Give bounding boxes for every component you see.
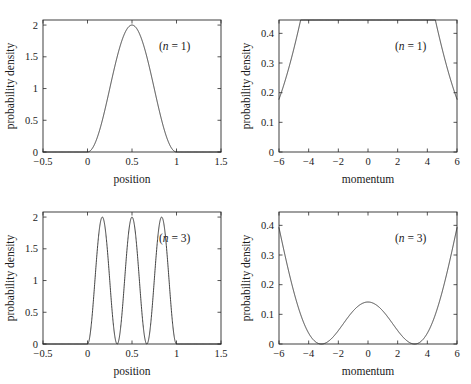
panel-annotation: (n = 1) <box>395 40 427 53</box>
x-tick-label: −0.5 <box>33 156 52 167</box>
x-tick-label: −0.5 <box>33 348 52 359</box>
data-curve <box>43 217 221 344</box>
y-tick-label: 2 <box>33 20 38 31</box>
y-tick-label: 0.5 <box>25 115 38 126</box>
x-tick-label: 4 <box>425 348 431 359</box>
x-axis-title: position <box>113 173 150 186</box>
x-tick-label: −2 <box>333 156 344 167</box>
plot-area-position-n1: −0.500.511.500.511.52positionprobability… <box>4 20 228 186</box>
data-curve <box>279 20 457 99</box>
x-tick-label: 0.5 <box>125 156 138 167</box>
y-tick-label: 0.3 <box>261 58 274 69</box>
x-tick-label: 0 <box>365 156 370 167</box>
panel-position-n3: −0.500.511.500.511.52positionprobability… <box>0 192 235 384</box>
y-tick-label: 0.5 <box>25 307 38 318</box>
plot-momentum-n1: −6−4−2024600.10.20.30.4momentumprobabili… <box>236 0 471 192</box>
x-tick-label: 2 <box>395 348 400 359</box>
plot-area-momentum-n3: −6−4−2024600.10.20.30.4momentumprobabili… <box>240 212 460 377</box>
y-tick-label: 0.4 <box>261 220 275 231</box>
plot-momentum-n3: −6−4−2024600.10.20.30.4momentumprobabili… <box>236 192 471 384</box>
plot-position-n3: −0.500.511.500.511.52positionprobability… <box>0 192 235 384</box>
x-tick-label: 0.5 <box>125 348 138 359</box>
x-tick-label: −6 <box>273 348 284 359</box>
y-axis-title: probability density <box>240 234 253 321</box>
y-axis-title: probability density <box>240 42 253 129</box>
x-tick-label: 1 <box>174 156 179 167</box>
panel-annotation: (n = 3) <box>395 232 427 245</box>
x-tick-label: −4 <box>303 348 315 359</box>
y-tick-label: 0 <box>269 339 274 350</box>
x-tick-label: 6 <box>454 156 459 167</box>
figure-root: −0.500.511.500.511.52positionprobability… <box>0 0 471 384</box>
x-tick-label: 1.5 <box>214 348 227 359</box>
y-tick-label: 0.1 <box>261 117 274 128</box>
axes-frame <box>43 20 221 152</box>
plot-area-momentum-n1: −6−4−2024600.10.20.30.4momentumprobabili… <box>240 20 460 185</box>
data-curve <box>279 228 457 344</box>
y-tick-label: 0.4 <box>261 28 275 39</box>
panel-position-n1: −0.500.511.500.511.52positionprobability… <box>0 0 235 192</box>
x-tick-label: 4 <box>425 156 431 167</box>
x-tick-label: 2 <box>395 156 400 167</box>
axes-frame <box>279 20 457 152</box>
x-tick-label: 1.5 <box>214 156 227 167</box>
x-tick-label: −6 <box>273 156 284 167</box>
y-tick-label: 1.5 <box>25 51 38 62</box>
y-tick-label: 0 <box>269 147 274 158</box>
x-tick-label: 0 <box>85 156 90 167</box>
y-tick-label: 0.2 <box>261 87 274 98</box>
y-axis-title: probability density <box>4 234 17 321</box>
x-tick-label: 0 <box>85 348 90 359</box>
y-tick-label: 0.1 <box>261 309 274 320</box>
axes-frame <box>43 212 221 344</box>
x-tick-label: −2 <box>333 348 344 359</box>
y-axis-title: probability density <box>4 42 17 129</box>
y-tick-label: 0.2 <box>261 279 274 290</box>
data-curve <box>43 25 221 152</box>
y-tick-label: 0 <box>33 147 38 158</box>
x-tick-label: 1 <box>174 348 179 359</box>
x-tick-label: −4 <box>303 156 315 167</box>
panel-momentum-n1: −6−4−2024600.10.20.30.4momentumprobabili… <box>236 0 471 192</box>
y-tick-label: 1 <box>33 275 38 286</box>
y-tick-label: 1 <box>33 83 38 94</box>
panel-annotation: (n = 3) <box>159 232 191 245</box>
plot-area-position-n3: −0.500.511.500.511.52positionprobability… <box>4 212 228 378</box>
x-tick-label: 0 <box>365 348 370 359</box>
x-axis-title: momentum <box>342 365 394 377</box>
axes-frame <box>279 212 457 344</box>
panel-momentum-n3: −6−4−2024600.10.20.30.4momentumprobabili… <box>236 192 471 384</box>
x-axis-title: momentum <box>342 173 394 185</box>
x-axis-title: position <box>113 365 150 378</box>
x-tick-label: 6 <box>454 348 459 359</box>
y-tick-label: 2 <box>33 212 38 223</box>
y-tick-label: 0.3 <box>261 250 274 261</box>
plot-position-n1: −0.500.511.500.511.52positionprobability… <box>0 0 235 192</box>
y-tick-label: 0 <box>33 339 38 350</box>
panel-annotation: (n = 1) <box>159 40 191 53</box>
y-tick-label: 1.5 <box>25 243 38 254</box>
